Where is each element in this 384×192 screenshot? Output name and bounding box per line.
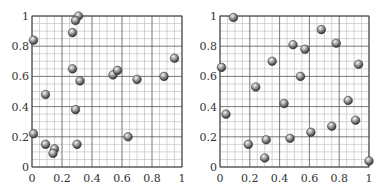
data-point	[286, 134, 295, 143]
x-tick-label: 0.2	[241, 172, 259, 185]
y-tick-label: 0.2	[12, 131, 30, 144]
y-tick-label: 0.8	[12, 40, 30, 53]
scatter-charts: 00.20.40.60.8100.20.40.60.81 00.20.40.60…	[0, 0, 384, 192]
data-point	[76, 77, 85, 86]
data-point	[170, 54, 179, 63]
y-tick-label: 0.6	[12, 70, 30, 83]
data-point	[268, 57, 277, 66]
data-point	[73, 140, 82, 149]
x-tick-label: 1	[366, 172, 373, 185]
y-tick-label: 0.6	[200, 70, 218, 83]
data-point	[289, 40, 298, 49]
x-tick-label: 0	[29, 172, 36, 185]
data-point	[229, 13, 238, 22]
data-point	[71, 16, 80, 25]
data-point	[317, 25, 326, 34]
data-point	[307, 128, 316, 137]
data-point	[332, 39, 341, 48]
x-tick-label: 0.6	[113, 172, 131, 185]
x-tick-label: 1	[179, 172, 186, 185]
data-point	[251, 83, 260, 92]
data-point	[296, 72, 305, 81]
y-tick-label: 0.8	[200, 40, 218, 53]
y-tick-label: 0	[210, 161, 217, 174]
data-point	[160, 72, 169, 81]
data-point	[49, 149, 58, 158]
y-tick-label: 1	[210, 10, 217, 23]
data-point	[41, 140, 50, 149]
y-tick-label: 0.2	[200, 131, 218, 144]
data-point	[68, 65, 77, 74]
scatter-plot-left: 00.20.40.60.8100.20.40.60.81	[12, 10, 186, 185]
data-point	[124, 133, 133, 142]
data-point	[365, 157, 374, 166]
data-point	[280, 99, 289, 108]
data-point	[344, 96, 353, 105]
data-point	[327, 122, 336, 131]
data-point	[29, 36, 38, 45]
data-point	[222, 110, 231, 119]
data-point	[29, 129, 38, 138]
data-point	[41, 90, 50, 99]
data-point	[217, 63, 226, 72]
data-point	[68, 28, 77, 37]
data-point	[262, 136, 271, 145]
data-point	[301, 45, 310, 54]
data-point	[133, 75, 142, 84]
x-tick-label: 0.8	[330, 172, 348, 185]
y-tick-label: 0	[22, 161, 29, 174]
data-point	[351, 116, 360, 125]
y-tick-label: 1	[22, 10, 29, 23]
data-points	[217, 13, 373, 165]
grid	[220, 16, 369, 167]
x-tick-label: 0	[217, 172, 224, 185]
y-tick-label: 0.4	[12, 101, 30, 114]
y-tick-label: 0.4	[200, 101, 218, 114]
x-tick-label: 0.8	[143, 172, 161, 185]
data-point	[71, 105, 80, 114]
data-points	[29, 12, 179, 158]
data-point	[260, 154, 269, 163]
data-point	[354, 60, 363, 69]
x-tick-label: 0.6	[301, 172, 319, 185]
scatter-plot-right: 00.20.40.60.8100.20.40.60.81	[200, 10, 374, 185]
x-tick-label: 0.4	[271, 172, 289, 185]
data-point	[113, 66, 122, 75]
x-tick-label: 0.2	[53, 172, 71, 185]
data-point	[244, 140, 253, 149]
x-tick-label: 0.4	[83, 172, 101, 185]
